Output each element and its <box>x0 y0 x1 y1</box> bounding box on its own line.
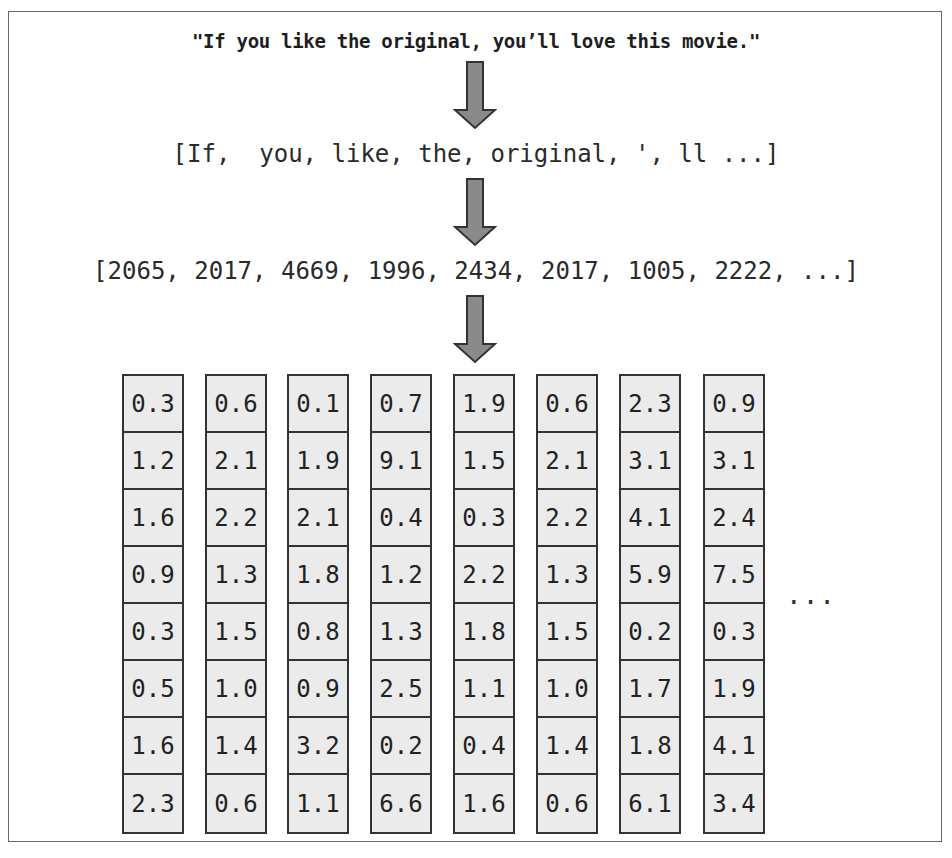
embedding-vector: 0.9 3.1 2.4 7.5 0.3 1.9 4.1 3.4 <box>703 374 765 834</box>
embedding-value: 3.2 <box>289 718 347 775</box>
embedding-value: 2.3 <box>124 775 182 832</box>
embedding-value: 1.8 <box>621 718 679 775</box>
embedding-value: 9.1 <box>372 433 430 490</box>
embedding-value: 1.1 <box>455 661 513 718</box>
embedding-value: 1.0 <box>538 661 596 718</box>
embedding-value: 2.2 <box>455 547 513 604</box>
embedding-value: 0.4 <box>372 490 430 547</box>
embedding-value: 2.2 <box>538 490 596 547</box>
token-id-list: [2065, 2017, 4669, 1996, 2434, 2017, 100… <box>0 257 952 285</box>
embedding-value: 4.1 <box>621 490 679 547</box>
embedding-value: 0.9 <box>705 376 763 433</box>
embedding-value: 0.6 <box>538 775 596 832</box>
embedding-value: 2.1 <box>207 433 265 490</box>
embedding-value: 1.4 <box>538 718 596 775</box>
embedding-value: 0.9 <box>289 661 347 718</box>
embedding-value: 5.9 <box>621 547 679 604</box>
embedding-value: 2.4 <box>705 490 763 547</box>
embedding-value: 0.8 <box>289 604 347 661</box>
embedding-value: 2.2 <box>207 490 265 547</box>
embedding-value: 1.6 <box>124 490 182 547</box>
embedding-value: 0.3 <box>705 604 763 661</box>
embedding-value: 1.1 <box>289 775 347 832</box>
embedding-value: 0.4 <box>455 718 513 775</box>
embedding-vector: 2.3 3.1 4.1 5.9 0.2 1.7 1.8 6.1 <box>619 374 681 834</box>
embedding-vector: 0.6 2.1 2.2 1.3 1.5 1.0 1.4 0.6 <box>205 374 267 834</box>
embedding-value: 0.7 <box>372 376 430 433</box>
embedding-value: 1.7 <box>621 661 679 718</box>
embedding-value: 0.3 <box>124 376 182 433</box>
embedding-vector: 0.6 2.1 2.2 1.3 1.5 1.0 1.4 0.6 <box>536 374 598 834</box>
embedding-value: 0.2 <box>621 604 679 661</box>
embedding-value: 1.4 <box>207 718 265 775</box>
embedding-value: 1.3 <box>538 547 596 604</box>
embedding-value: 3.1 <box>705 433 763 490</box>
embedding-value: 3.1 <box>621 433 679 490</box>
down-arrow-icon <box>453 177 497 247</box>
embedding-value: 0.6 <box>207 376 265 433</box>
embedding-vector: 0.1 1.9 2.1 1.8 0.8 0.9 3.2 1.1 <box>287 374 349 834</box>
embedding-value: 1.8 <box>289 547 347 604</box>
more-vectors-ellipsis: ... <box>786 580 836 610</box>
embedding-vector: 1.9 1.5 0.3 2.2 1.8 1.1 0.4 1.6 <box>453 374 515 834</box>
embedding-value: 1.6 <box>124 718 182 775</box>
embedding-value: 0.3 <box>455 490 513 547</box>
embedding-value: 0.6 <box>538 376 596 433</box>
embedding-value: 1.5 <box>538 604 596 661</box>
embedding-value: 6.1 <box>621 775 679 832</box>
embedding-value: 0.3 <box>124 604 182 661</box>
embedding-value: 1.9 <box>289 433 347 490</box>
down-arrow-icon <box>453 294 497 364</box>
embedding-value: 0.6 <box>207 775 265 832</box>
embedding-value: 1.2 <box>372 547 430 604</box>
embedding-value: 2.3 <box>621 376 679 433</box>
embedding-value: 0.5 <box>124 661 182 718</box>
embedding-value: 1.2 <box>124 433 182 490</box>
embedding-value: 1.9 <box>705 661 763 718</box>
embedding-value: 6.6 <box>372 775 430 832</box>
embedding-value: 1.0 <box>207 661 265 718</box>
embedding-value: 3.4 <box>705 775 763 832</box>
embedding-value: 1.8 <box>455 604 513 661</box>
embedding-value: 1.3 <box>372 604 430 661</box>
embedding-value: 1.3 <box>207 547 265 604</box>
embedding-value: 4.1 <box>705 718 763 775</box>
embedding-value: 0.1 <box>289 376 347 433</box>
embedding-value: 2.1 <box>538 433 596 490</box>
embedding-value: 1.6 <box>455 775 513 832</box>
token-list: [If, you, like, the, original, ', ll ...… <box>0 140 952 168</box>
embedding-value: 1.9 <box>455 376 513 433</box>
embedding-value: 1.5 <box>455 433 513 490</box>
embedding-value: 7.5 <box>705 547 763 604</box>
embedding-value: 0.9 <box>124 547 182 604</box>
embedding-vector: 0.3 1.2 1.6 0.9 0.3 0.5 1.6 2.3 <box>122 374 184 834</box>
embedding-value: 1.5 <box>207 604 265 661</box>
input-sentence: "If you like the original, you’ll love t… <box>0 30 952 52</box>
embedding-vector: 0.7 9.1 0.4 1.2 1.3 2.5 0.2 6.6 <box>370 374 432 834</box>
embedding-value: 2.5 <box>372 661 430 718</box>
embedding-value: 2.1 <box>289 490 347 547</box>
embedding-value: 0.2 <box>372 718 430 775</box>
down-arrow-icon <box>453 60 497 130</box>
